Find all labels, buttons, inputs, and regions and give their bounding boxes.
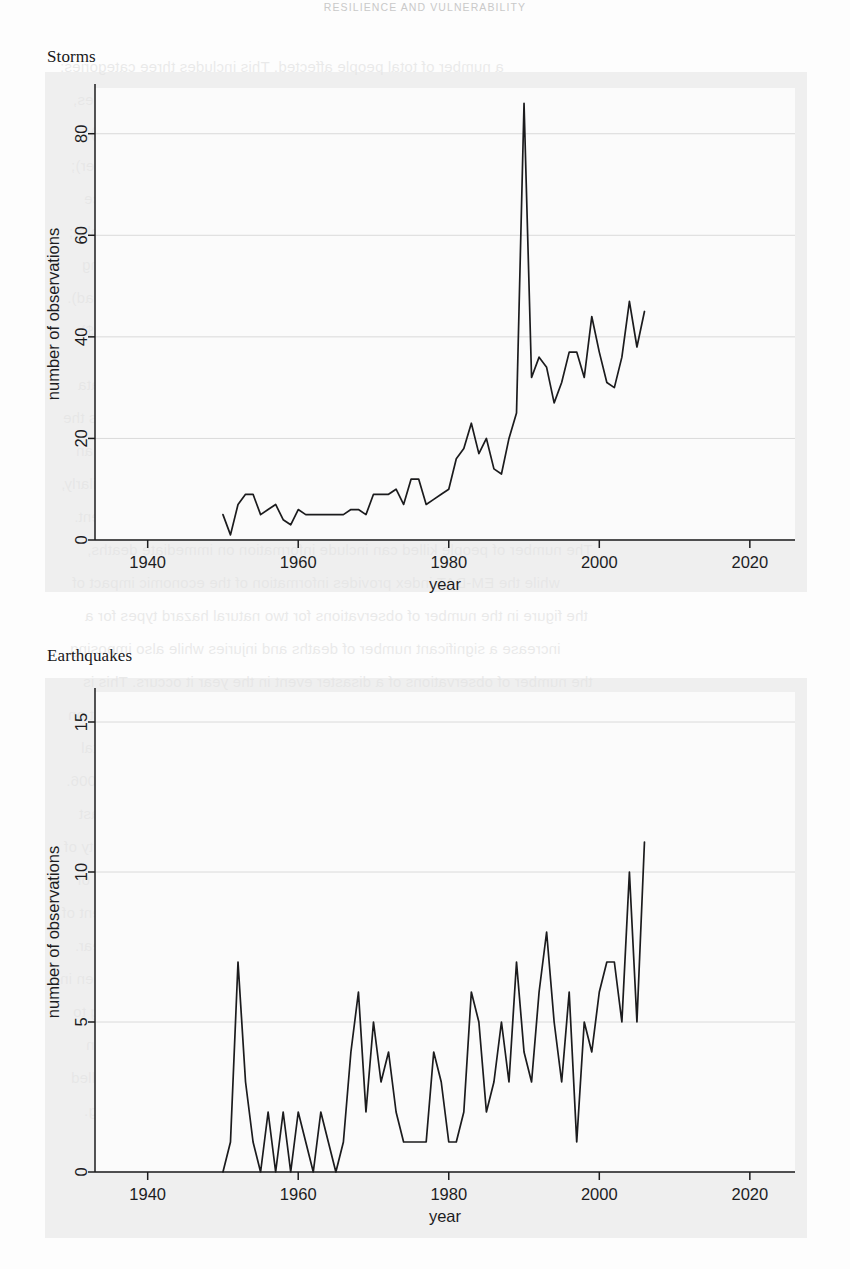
x-tick-label: 2000: [581, 553, 618, 571]
y-tick-label: 10: [72, 863, 90, 881]
x-tick-label: 1940: [129, 553, 166, 571]
y-tick-label: 0: [72, 1167, 90, 1176]
x-tick-label: 1960: [280, 553, 317, 571]
y-tick-label: 0: [72, 535, 90, 544]
y-tick-label: 15: [72, 713, 90, 731]
y-tick-label: 40: [72, 328, 90, 346]
x-tick-label: 1940: [129, 1185, 166, 1203]
chart-storms: 020406080number of observations194019601…: [0, 0, 850, 600]
chart-earthquakes: 051015number of observations194019601980…: [0, 600, 850, 1269]
x-tick-label: 2020: [731, 1185, 768, 1203]
y-tick-label: 80: [72, 125, 90, 143]
x-axis-title: year: [429, 1207, 462, 1225]
y-axis-title: number of observations: [44, 846, 62, 1018]
x-tick-label: 1980: [430, 553, 467, 571]
y-tick-label: 20: [72, 429, 90, 447]
y-axis-title: number of observations: [44, 228, 62, 400]
x-axis-title: year: [429, 575, 462, 593]
y-tick-label: 60: [72, 226, 90, 244]
figure-earthquakes: Earthquakes 051015number of observations…: [0, 600, 850, 1269]
y-tick-label: 5: [72, 1017, 90, 1026]
x-tick-label: 1980: [430, 1185, 467, 1203]
x-tick-label: 2000: [581, 1185, 618, 1203]
x-tick-label: 1960: [280, 1185, 317, 1203]
data-series-line: [223, 103, 645, 535]
data-series-line: [223, 842, 645, 1172]
figure-storms: Storms 020406080number of observations19…: [0, 0, 850, 600]
x-tick-label: 2020: [731, 553, 768, 571]
